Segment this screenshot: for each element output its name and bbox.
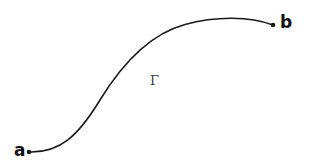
figure-canvas: a b Γ: [0, 0, 309, 166]
endpoint-label-a: a: [14, 142, 25, 159]
curve-label-gamma: Γ: [150, 74, 159, 87]
endpoint-label-b: b: [280, 14, 292, 31]
endpoint-dot-b: [271, 23, 276, 28]
endpoint-dot-a: [27, 150, 32, 155]
